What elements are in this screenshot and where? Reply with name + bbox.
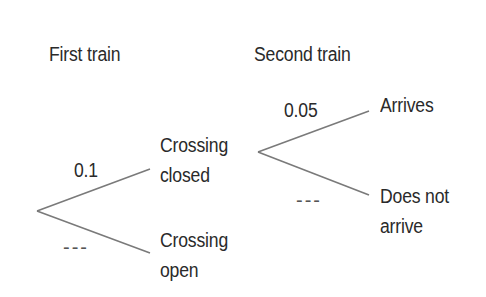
header-second-train: Second train — [254, 42, 351, 66]
outcome-does-not-arrive-line2: arrive — [380, 214, 423, 238]
prob-crossing-open: --- — [63, 237, 89, 257]
outcome-crossing-closed-line2: closed — [160, 163, 210, 187]
prob-does-not-arrive: --- — [296, 190, 322, 210]
outcome-does-not-arrive-line1: Does not — [380, 184, 449, 208]
prob-crossing-closed: 0.1 — [74, 158, 98, 182]
outcome-crossing-closed-line1: Crossing — [160, 133, 228, 157]
prob-arrives: 0.05 — [284, 98, 318, 122]
outcome-arrives: Arrives — [380, 93, 434, 117]
header-first-train: First train — [49, 42, 120, 66]
outcome-crossing-open-line2: open — [160, 258, 198, 282]
outcome-crossing-open-line1: Crossing — [160, 228, 228, 252]
branch-crossing-open — [37, 211, 150, 253]
